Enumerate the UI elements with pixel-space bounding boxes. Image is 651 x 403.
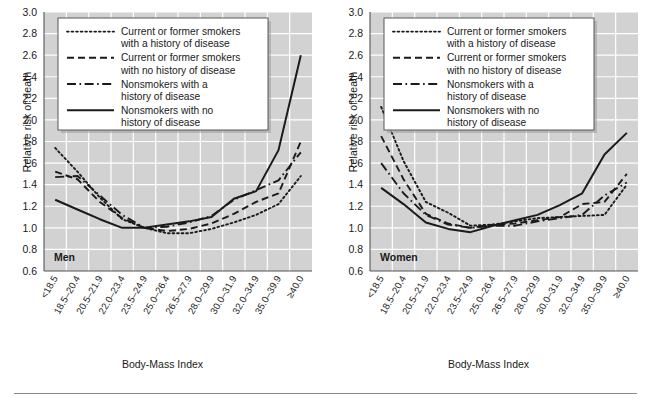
x-axis-label-women: Body-Mass Index — [326, 358, 651, 370]
y-tick-label: 2.0 — [22, 114, 37, 126]
y-tick-label: 1.8 — [22, 135, 37, 147]
legend-label-line2: history of disease — [447, 91, 527, 102]
figure-bottom-rule — [14, 393, 637, 394]
legend-label-line2: with a history of disease — [120, 38, 230, 49]
y-tick-label: 0.6 — [348, 265, 363, 277]
y-tick-label: 1.8 — [348, 135, 363, 147]
y-tick-label: 1.2 — [348, 200, 363, 212]
y-tick-label: 2.6 — [348, 49, 363, 61]
legend-label-line1: Nonsmokers with a — [121, 79, 208, 90]
group-label-text: Men — [54, 251, 75, 263]
legend-label-line2: history of disease — [121, 91, 201, 102]
legend-label-line1: Nonsmokers with a — [447, 79, 534, 90]
panel-men: Relative risk of death 3.02.82.62.42.22.… — [0, 0, 325, 380]
legend-label-line2: history of disease — [447, 117, 527, 128]
x-tick-label: ≥40.0 — [610, 274, 632, 300]
x-tick-label-group: <18.5 — [364, 274, 386, 301]
y-tick-label: 0.8 — [348, 243, 363, 255]
group-label: Women — [380, 251, 418, 263]
y-tick-label: 1.2 — [22, 200, 37, 212]
group-label-text: Women — [380, 251, 418, 263]
y-tick-label: 2.2 — [22, 92, 37, 104]
y-tick-label: 2.4 — [348, 71, 363, 83]
legend-label-line1: Nonsmokers with no — [447, 105, 540, 116]
panel-women: Relative risk of death 3.02.82.62.42.22.… — [326, 0, 651, 380]
y-tick-label: 1.4 — [22, 178, 37, 190]
x-tick-label-group: <18.5 — [38, 274, 60, 301]
y-tick-label: 0.8 — [22, 243, 37, 255]
y-tick-label: 3.0 — [22, 6, 37, 18]
legend-label-line2: with no history of disease — [120, 65, 236, 76]
plot-women: 3.02.82.62.42.22.01.81.61.41.21.00.80.6<… — [326, 0, 651, 380]
y-tick-label: 1.0 — [22, 222, 37, 234]
y-tick-label: 1.0 — [348, 222, 363, 234]
legend-label-line2: with no history of disease — [446, 65, 562, 76]
y-tick-label: 2.8 — [348, 27, 363, 39]
y-tick-label: 2.8 — [22, 27, 37, 39]
plot-men: 3.02.82.62.42.22.01.81.61.41.21.00.80.6<… — [0, 0, 325, 380]
legend-label-line2: with a history of disease — [446, 38, 556, 49]
x-tick-label: <18.5 — [38, 274, 60, 301]
y-tick-label: 1.4 — [348, 178, 363, 190]
y-tick-label: 2.4 — [22, 71, 37, 83]
y-tick-label: 1.6 — [22, 157, 37, 169]
legend-label-line1: Current or former smokers — [447, 26, 566, 37]
x-tick-label-group: ≥40.0 — [610, 274, 632, 300]
y-tick-label: 1.6 — [348, 157, 363, 169]
x-tick-label: <18.5 — [364, 274, 386, 301]
y-tick-label: 2.0 — [348, 114, 363, 126]
y-tick-label: 0.6 — [22, 265, 37, 277]
legend-label-line1: Current or former smokers — [121, 52, 240, 63]
legend-label-line1: Nonsmokers with no — [121, 105, 214, 116]
legend-label-line2: history of disease — [121, 117, 201, 128]
y-tick-label: 2.6 — [22, 49, 37, 61]
y-tick-label: 2.2 — [348, 92, 363, 104]
figure-root: Relative risk of death 3.02.82.62.42.22.… — [0, 0, 651, 403]
group-label: Men — [54, 251, 75, 263]
x-axis-label-men: Body-Mass Index — [0, 358, 325, 370]
x-tick-label-group: ≥40.0 — [284, 274, 306, 300]
legend-label-line1: Current or former smokers — [447, 52, 566, 63]
legend-label-line1: Current or former smokers — [121, 26, 240, 37]
x-tick-label: ≥40.0 — [284, 274, 306, 300]
y-tick-label: 3.0 — [348, 6, 363, 18]
